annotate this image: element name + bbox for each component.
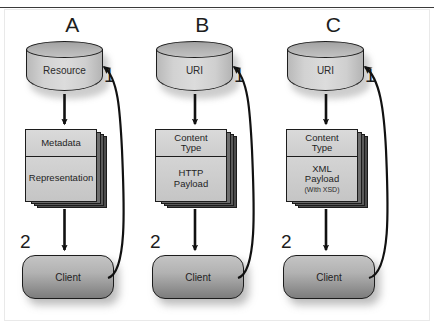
diagram-column-a: A Resource Metadata Representation 2 1 [0, 0, 145, 329]
cylinder-top-ellipse [287, 41, 364, 58]
diagram-column-b: B URI ContentType HTTPPayload 2 1 [130, 0, 275, 329]
step-number-1-a: 1 [104, 66, 115, 85]
cylinder-label-c: URI [287, 65, 364, 76]
cylinder-top-ellipse [26, 41, 103, 58]
stack-top-label-b: ContentType [156, 130, 226, 157]
stack-sub-label-c: (With XSD) [305, 186, 340, 195]
cylinder-label-b: URI [156, 65, 233, 76]
client-box-a: Client [22, 255, 114, 299]
stack-front-card-a: Metadata Representation [25, 129, 97, 202]
step-number-2-b: 2 [150, 232, 161, 251]
stack-bottom-cell-a: Representation [26, 157, 96, 201]
document-stack-a: Metadata Representation [25, 129, 113, 210]
client-label-b: Client [185, 272, 211, 283]
column-letter-b: B [130, 14, 275, 35]
document-stack-c: ContentType XMLPayload (With XSD) [286, 129, 374, 210]
client-box-c: Client [283, 255, 375, 299]
cylinder-uri-b: URI [156, 41, 235, 94]
client-label-a: Client [55, 272, 81, 283]
stack-bottom-cell-b: HTTPPayload [156, 157, 226, 201]
client-label-c: Client [316, 272, 342, 283]
client-box-b: Client [152, 255, 244, 299]
diagram-canvas: A Resource Metadata Representation 2 1 [0, 0, 434, 329]
cylinder-label-a: Resource [26, 65, 103, 76]
stack-top-label-c: ContentType [287, 130, 357, 157]
document-stack-b: ContentType HTTPPayload [155, 129, 243, 210]
column-letter-a: A [0, 14, 145, 35]
diagram-column-c: C URI ContentType XMLPayload (With XSD) … [261, 0, 406, 329]
cylinder-resource-a: Resource [26, 41, 105, 94]
step-number-2-a: 2 [20, 232, 31, 251]
client-body-a: Client [22, 255, 114, 299]
stack-top-label-a: Metadata [26, 130, 96, 157]
step-number-1-b: 1 [234, 66, 245, 85]
client-body-c: Client [283, 255, 375, 299]
stack-front-card-b: ContentType HTTPPayload [155, 129, 227, 202]
cylinder-top-ellipse [156, 41, 233, 58]
step-number-1-c: 1 [365, 66, 376, 85]
cylinder-uri-c: URI [287, 41, 366, 94]
stack-bottom-cell-c: XMLPayload (With XSD) [287, 157, 357, 201]
stack-bottom-label-c: XMLPayload [305, 164, 339, 185]
stack-front-card-c: ContentType XMLPayload (With XSD) [286, 129, 358, 202]
step-number-2-c: 2 [281, 232, 292, 251]
stack-bottom-label-b: HTTPPayload [174, 168, 208, 189]
client-body-b: Client [152, 255, 244, 299]
stack-bottom-label-a: Representation [29, 173, 93, 184]
column-letter-c: C [261, 14, 406, 35]
